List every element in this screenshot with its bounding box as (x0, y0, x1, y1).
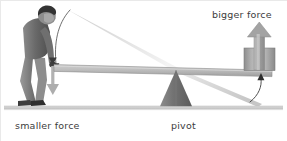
downward-force-arrow (47, 58, 59, 96)
person-rear-leg (20, 57, 36, 104)
lever-beam (54, 65, 272, 77)
left-motion-arc (55, 10, 70, 64)
lever-diagram: smaller force pivot bigger force (0, 0, 287, 141)
left-motion-trail (68, 10, 186, 72)
label-smaller-force: smaller force (15, 121, 80, 131)
person-front-shoe (31, 100, 46, 106)
label-bigger-force: bigger force (212, 10, 272, 20)
ground-line (4, 106, 283, 110)
right-motion-arc (250, 79, 261, 102)
label-pivot: pivot (171, 121, 196, 131)
person-front-leg (34, 57, 47, 103)
